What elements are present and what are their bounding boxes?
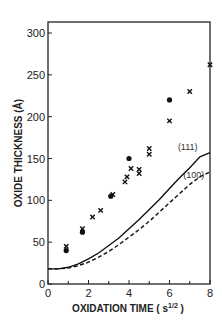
x-tick-label: 6	[166, 287, 172, 299]
y-tick-label: 300	[27, 27, 45, 39]
cross-marker	[129, 166, 133, 170]
cross-marker	[147, 152, 151, 156]
curve-label: (100)	[183, 170, 204, 180]
cross-marker	[188, 89, 192, 93]
y-tick-label: 50	[33, 236, 45, 248]
cross-marker	[137, 167, 141, 171]
cross-marker	[137, 171, 141, 175]
cross-marker	[147, 146, 151, 150]
y-tick-label: 200	[27, 111, 45, 123]
cross-marker	[123, 180, 127, 184]
curve-label: (111)	[178, 142, 198, 152]
dot-marker	[167, 97, 172, 102]
x-tick-label: 2	[85, 287, 91, 299]
oxide-thickness-chart: 050100150200250300 02468 (111)(100) OXID…	[0, 0, 222, 321]
dot-marker	[126, 156, 131, 161]
y-tick-label: 150	[27, 153, 45, 165]
curve-100	[48, 172, 210, 269]
y-axis-title: OXIDE THICKNESS (Å)	[12, 99, 24, 207]
cross-marker	[98, 208, 102, 212]
y-tick-label: 100	[27, 194, 45, 206]
x-tick-label: 0	[45, 287, 51, 299]
cross-marker	[125, 175, 129, 179]
x-tick-label: 8	[207, 287, 213, 299]
cross-marker	[64, 244, 68, 248]
cross-marker	[90, 215, 94, 219]
x-axis-title: OXIDATION TIME ( s1/2 )	[72, 302, 184, 314]
plot-frame	[48, 22, 210, 284]
curve-labels: (111)(100)	[178, 142, 204, 180]
x-axis: 02468	[45, 280, 213, 299]
data-points	[64, 63, 213, 254]
x-tick-label: 4	[126, 287, 132, 299]
cross-marker	[167, 119, 171, 123]
y-tick-label: 250	[27, 69, 45, 81]
